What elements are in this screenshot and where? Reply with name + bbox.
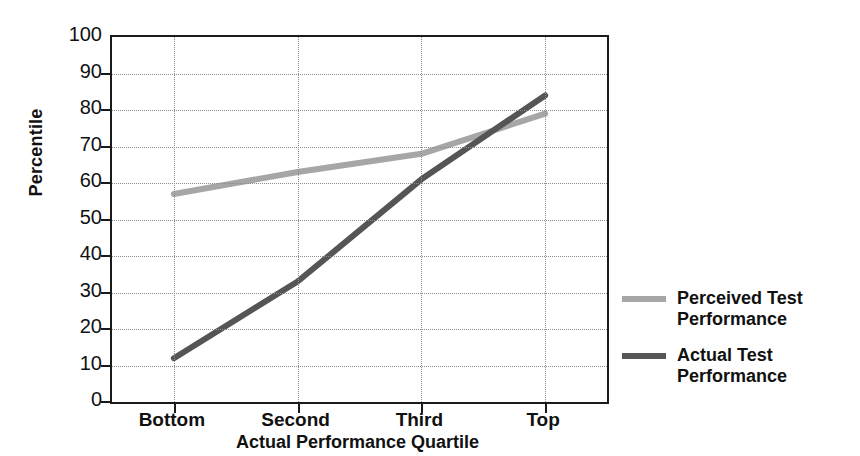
y-tick-mark: [101, 401, 112, 403]
y-gridline: [112, 74, 607, 75]
y-gridline: [112, 256, 607, 257]
y-tick-label: 0: [56, 389, 102, 409]
chart-legend: Perceived TestPerformanceActual TestPerf…: [622, 288, 852, 403]
y-tick-label: 90: [56, 61, 102, 81]
legend-line-swatch: [622, 353, 666, 359]
y-tick-label: 60: [56, 170, 102, 190]
legend-label-line2: Performance: [677, 309, 803, 330]
y-tick-label: 50: [56, 207, 102, 227]
y-tick-mark: [101, 292, 112, 294]
legend-label: Actual TestPerformance: [677, 345, 787, 386]
x-gridline: [174, 37, 175, 402]
plot-area: [110, 35, 609, 404]
y-tick-label: 40: [56, 243, 102, 263]
plot-inner: [112, 37, 607, 402]
legend-label: Perceived TestPerformance: [677, 288, 803, 329]
y-gridline: [112, 329, 607, 330]
x-axis-title: Actual Performance Quartile: [110, 432, 605, 453]
y-tick-label: 100: [56, 24, 102, 44]
y-gridline: [112, 366, 607, 367]
y-tick-mark: [101, 328, 112, 330]
legend-line-swatch: [622, 296, 666, 302]
y-gridline: [112, 293, 607, 294]
x-gridline: [545, 37, 546, 402]
series-line: [174, 95, 545, 358]
y-tick-mark: [101, 109, 112, 111]
y-gridline: [112, 220, 607, 221]
y-tick-mark: [101, 182, 112, 184]
y-tick-label: 20: [56, 316, 102, 336]
y-gridline: [112, 183, 607, 184]
y-tick-mark: [101, 365, 112, 367]
y-tick-label: 70: [56, 134, 102, 154]
chart-figure: Percentile 1009080706050403020100 Bottom…: [0, 0, 860, 456]
x-gridline: [421, 37, 422, 402]
legend-label-line2: Performance: [677, 366, 787, 387]
y-tick-label: 10: [56, 353, 102, 373]
legend-label-line1: Perceived Test: [677, 288, 803, 309]
y-gridline: [112, 110, 607, 111]
x-tick-label: Bottom: [139, 409, 205, 431]
x-tick-label: Top: [526, 409, 559, 431]
y-tick-label: 80: [56, 97, 102, 117]
y-tick-mark: [101, 219, 112, 221]
legend-item[interactable]: Perceived TestPerformance: [622, 288, 852, 329]
y-gridline: [112, 147, 607, 148]
y-axis-title: Percentile: [26, 73, 47, 233]
y-tick-mark: [101, 255, 112, 257]
y-tick-mark: [101, 146, 112, 148]
x-gridline: [298, 37, 299, 402]
legend-item[interactable]: Actual TestPerformance: [622, 345, 852, 386]
y-axis-tick-labels: 1009080706050403020100: [50, 0, 102, 456]
legend-label-line1: Actual Test: [677, 345, 787, 366]
y-tick-mark: [101, 73, 112, 75]
y-tick-label: 30: [56, 280, 102, 300]
x-tick-label: Second: [261, 409, 330, 431]
x-tick-label: Third: [396, 409, 444, 431]
series-line: [174, 114, 545, 194]
